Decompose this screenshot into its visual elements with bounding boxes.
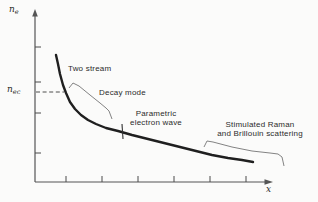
- annotation-parametric-line2: electron wave: [116, 118, 196, 127]
- annotation-raman-brillouin: Stimulated Raman and Brillouin scatterin…: [208, 120, 312, 139]
- y-axis-label: ne: [9, 4, 19, 14]
- annotation-parametric-electron-wave: Parametric electron wave: [116, 109, 196, 128]
- critical-density-subscript: ec: [13, 88, 21, 96]
- annotation-decay-mode: Decay mode: [99, 88, 146, 97]
- density-vs-distance-figure: ne nec x Two stream Decay mode Parametri…: [0, 0, 318, 202]
- annotation-two-stream: Two stream: [68, 64, 111, 73]
- plot-svg: [0, 0, 318, 202]
- annotation-raman-line2: and Brillouin scattering: [208, 129, 312, 138]
- x-axis-label: x: [266, 184, 271, 194]
- y-axis-subscript: e: [15, 8, 19, 16]
- y-axis-arrowhead: [32, 9, 38, 17]
- critical-density-label: nec: [7, 84, 20, 94]
- annotation-parametric-line1: Parametric: [116, 109, 196, 118]
- annotation-raman-line1: Stimulated Raman: [208, 120, 312, 129]
- raman-brillouin-bracket: [204, 141, 284, 166]
- x-axis-var: x: [266, 184, 271, 194]
